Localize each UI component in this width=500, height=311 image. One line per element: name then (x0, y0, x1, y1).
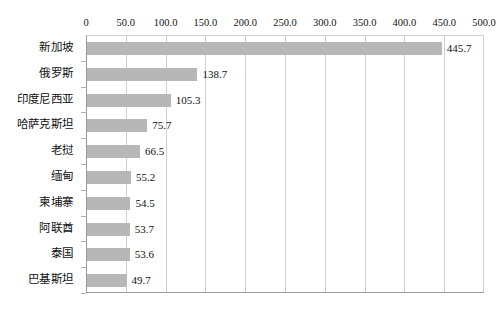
x-axis-tick-label: 100.0 (154, 17, 178, 28)
bar-row: 54.5 (87, 191, 484, 217)
x-axis-tick-label: 50.0 (117, 17, 135, 28)
x-axis-tick-label: 350.0 (353, 17, 377, 28)
y-axis-tick-mark (81, 112, 86, 113)
bar-row: 53.7 (87, 217, 484, 243)
x-axis-tick-label: 250.0 (273, 17, 297, 28)
bar-value-label: 105.3 (171, 93, 201, 108)
y-axis-category-label: 老挝 (51, 138, 73, 164)
y-axis-category-label: 哈萨克斯坦 (17, 112, 73, 138)
x-axis-tick-labels: 050.0100.0150.0200.0250.0300.0350.0400.0… (0, 17, 500, 33)
bar-layer: 445.7138.7105.375.766.555.254.553.753.64… (87, 36, 484, 293)
bar-value-label: 53.6 (130, 247, 154, 262)
y-axis-tick-mark (81, 164, 86, 165)
y-axis-tick-mark (81, 241, 86, 242)
y-axis-tick-mark (81, 293, 86, 294)
x-axis-tick-label: 300.0 (313, 17, 337, 28)
bar (87, 248, 130, 261)
y-axis-category-label: 阿联酋 (39, 216, 73, 242)
bar-value-label: 53.7 (130, 222, 154, 237)
y-axis-category-label: 新加坡 (39, 35, 73, 61)
bar-row: 66.5 (87, 139, 484, 165)
bar-chart: 050.0100.0150.0200.0250.0300.0350.0400.0… (0, 0, 500, 311)
x-axis-tick-label: 450.0 (432, 17, 456, 28)
bar-value-label: 75.7 (147, 118, 171, 133)
bar-row: 55.2 (87, 165, 484, 191)
bar (87, 223, 130, 236)
y-axis-tick-mark (81, 190, 86, 191)
y-axis-tick-mark (81, 87, 86, 88)
bar-row: 53.6 (87, 242, 484, 268)
bar-value-label: 445.7 (442, 41, 472, 56)
y-axis-category-label: 巴基斯坦 (28, 267, 73, 293)
bar (87, 274, 127, 287)
x-axis-tick-label: 500.0 (472, 17, 496, 28)
bar-value-label: 49.7 (127, 273, 151, 288)
bar (87, 145, 140, 158)
bar-row: 138.7 (87, 62, 484, 88)
bar (87, 171, 131, 184)
bar-value-label: 66.5 (140, 144, 164, 159)
bar (87, 42, 442, 55)
bar-value-label: 54.5 (130, 196, 154, 211)
y-axis-tick-mark (81, 216, 86, 217)
y-axis-category-labels: 新加坡俄罗斯印度尼西亚哈萨克斯坦老挝缅甸柬埔寨阿联酋泰国巴基斯坦 (0, 35, 80, 293)
bar (87, 94, 171, 107)
bar-row: 75.7 (87, 113, 484, 139)
y-axis-category-label: 缅甸 (51, 164, 73, 190)
bar-value-label: 55.2 (131, 170, 155, 185)
y-axis-tick-mark (81, 61, 86, 62)
bar (87, 68, 197, 81)
bar-row: 445.7 (87, 36, 484, 62)
bar-row: 105.3 (87, 88, 484, 114)
bar (87, 119, 147, 132)
x-axis-tick-label: 150.0 (194, 17, 218, 28)
x-axis-tick-label: 0 (83, 17, 88, 28)
y-axis-tick-mark (81, 267, 86, 268)
y-axis-category-label: 柬埔寨 (39, 190, 73, 216)
bar-row: 49.7 (87, 268, 484, 294)
y-axis-category-label: 印度尼西亚 (17, 87, 73, 113)
y-axis-category-label: 俄罗斯 (39, 61, 73, 87)
x-axis-tick-label: 200.0 (233, 17, 257, 28)
x-axis-tick-label: 400.0 (393, 17, 417, 28)
bar (87, 197, 130, 210)
y-axis-category-label: 泰国 (51, 241, 73, 267)
bar-value-label: 138.7 (197, 67, 227, 82)
y-axis-tick-mark (81, 138, 86, 139)
